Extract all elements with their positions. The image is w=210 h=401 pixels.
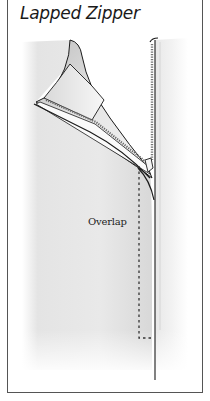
overlap-label: Overlap <box>88 216 127 227</box>
lapped-zipper-illustration <box>0 0 210 401</box>
